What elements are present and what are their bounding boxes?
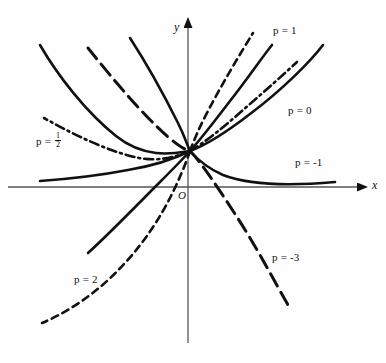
fraction-one-half: 12: [55, 132, 61, 149]
fraction-denominator: 2: [55, 141, 61, 149]
curve-label-p-0: p = 0: [288, 104, 312, 116]
curve-p-minus-3: [88, 48, 190, 151]
curve-p-2-lower: [42, 151, 190, 323]
curve-p-minus-3-lower: [190, 151, 288, 305]
curve-label-p-minus-1: p = -1: [295, 156, 323, 168]
curve-p-minus-1: [130, 38, 190, 151]
power-curves-figure: y x O p = 1 p = 0 p = -1 p = -3 p = 2 p …: [0, 0, 386, 363]
y-axis-label: y: [174, 20, 179, 35]
curve-p-1-right: [190, 45, 272, 151]
plot-canvas: [0, 0, 386, 363]
curve-label-p-2: p = 2: [74, 273, 98, 285]
curve-p-0-left: [40, 151, 190, 181]
origin-label: O: [178, 189, 186, 201]
x-axis-label: x: [372, 178, 377, 193]
curve-p-1-left: [88, 151, 190, 253]
curve-label-p-1: p = 1: [273, 24, 297, 36]
curve-label-p-half-prefix: p =: [36, 135, 54, 147]
curve-label-p-half: p = 12: [36, 132, 61, 149]
curve-label-p-minus-3: p = -3: [272, 251, 300, 263]
curve-p-half-right: [190, 62, 297, 151]
